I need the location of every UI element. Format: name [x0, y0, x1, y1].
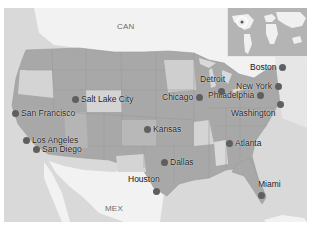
city-label: Houston — [128, 175, 160, 184]
marker-dot-icon — [153, 188, 160, 195]
country-label-canada: CAN — [117, 22, 135, 31]
city-marker-san-francisco[interactable]: San Francisco — [12, 109, 75, 118]
marker-dot-icon — [161, 159, 168, 166]
city-label: Miami — [258, 180, 281, 189]
marker-dot-icon — [226, 140, 233, 147]
city-label: Salt Lake City — [81, 95, 133, 104]
city-label: Detroit — [200, 75, 225, 84]
city-marker-miami[interactable]: Miami — [258, 180, 281, 199]
world-map-icon — [228, 8, 307, 56]
city-marker-dallas[interactable]: Dallas — [161, 158, 194, 167]
marker-dot-icon — [258, 192, 265, 199]
city-marker-chicago[interactable]: Chicago — [162, 93, 203, 102]
city-label: Kansas — [153, 125, 181, 134]
city-marker-boston[interactable]: Boston — [250, 63, 286, 72]
city-marker-washington[interactable]: Washington — [231, 101, 284, 118]
country-label-mexico: MEX — [105, 204, 123, 213]
marker-dot-icon — [279, 64, 286, 71]
us-map[interactable]: CAN MEX Boston New York Philadelphia Was… — [4, 8, 307, 222]
city-marker-houston[interactable]: Houston — [128, 175, 160, 195]
marker-dot-icon — [218, 88, 225, 95]
marker-dot-icon — [33, 146, 40, 153]
city-label: Washington — [231, 109, 276, 118]
marker-dot-icon — [196, 94, 203, 101]
marker-dot-icon — [72, 96, 79, 103]
state-new-mexico — [116, 154, 146, 172]
city-marker-detroit[interactable]: Detroit — [200, 75, 225, 95]
world-inset-map[interactable] — [227, 8, 307, 57]
state-oregon — [18, 70, 54, 98]
marker-dot-icon — [275, 83, 282, 90]
city-label: Boston — [250, 63, 276, 72]
city-marker-atlanta[interactable]: Atlanta — [226, 139, 261, 148]
city-label: Atlanta — [235, 139, 261, 148]
city-label: Chicago — [162, 93, 193, 102]
city-label: San Diego — [42, 145, 82, 154]
marker-dot-icon — [23, 137, 30, 144]
city-marker-kansas[interactable]: Kansas — [144, 125, 181, 134]
state-minnesota — [164, 60, 196, 92]
city-marker-san-diego[interactable]: San Diego — [33, 145, 82, 154]
city-label: Dallas — [170, 158, 194, 167]
marker-dot-icon — [144, 126, 151, 133]
marker-dot-icon — [257, 92, 264, 99]
marker-dot-icon — [12, 110, 19, 117]
city-marker-salt-lake-city[interactable]: Salt Lake City — [72, 95, 133, 104]
city-label: San Francisco — [21, 109, 75, 118]
cuba-landmass — [264, 215, 307, 222]
marker-dot-icon — [277, 101, 284, 108]
